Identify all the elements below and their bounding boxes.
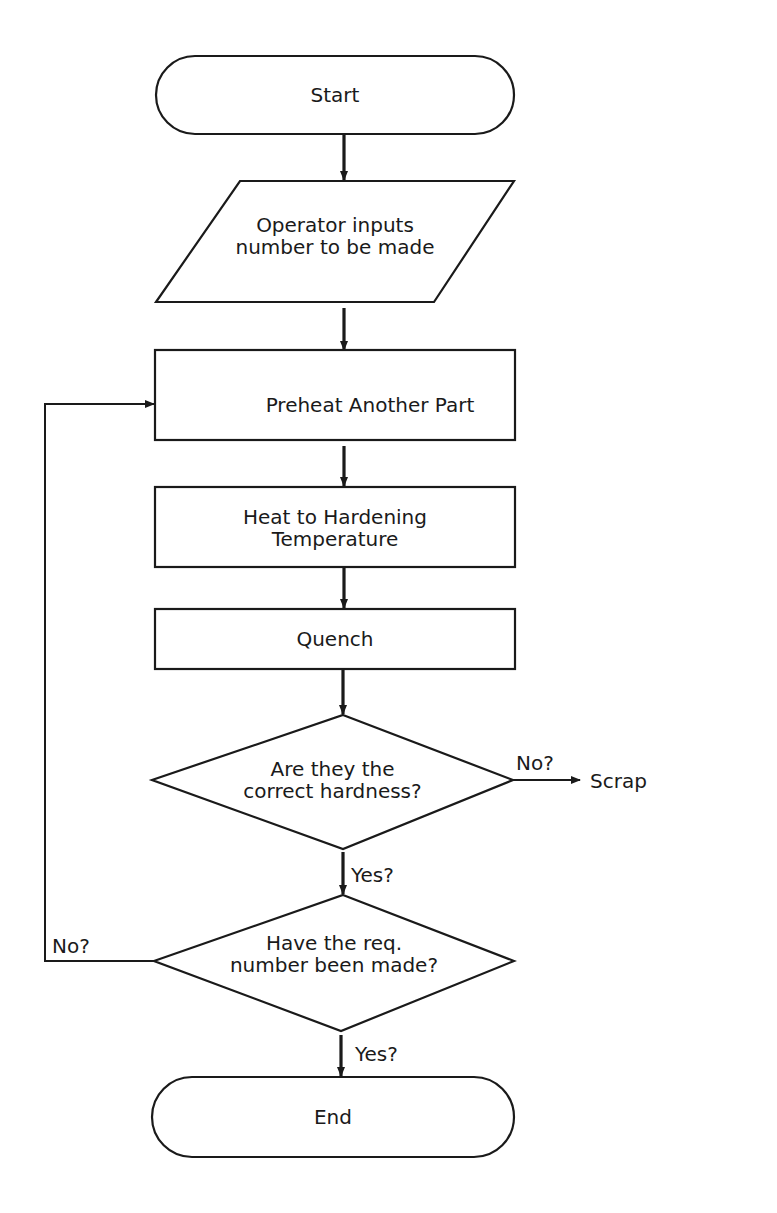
scrap-label: Scrap: [590, 770, 647, 792]
count-label-line1: Have the req.: [154, 932, 514, 954]
input-label-line2: number to be made: [156, 236, 514, 258]
edge-label-hardness-no: No?: [516, 752, 554, 774]
start-label: Start: [156, 84, 514, 106]
edge-count-preheat: [45, 404, 154, 961]
edge-label-count-yes: Yes?: [355, 1043, 398, 1065]
hardness-label-line2: correct hardness?: [152, 780, 513, 802]
edge-label-hardness-yes: Yes?: [351, 864, 394, 886]
quench-label: Quench: [155, 628, 515, 650]
end-label: End: [152, 1106, 514, 1128]
count-label: Have the req. number been made?: [154, 932, 514, 976]
hardness-label-line1: Are they the: [152, 758, 513, 780]
edge-label-count-no: No?: [52, 935, 90, 957]
hardness-label: Are they the correct hardness?: [152, 758, 513, 802]
input-label: Operator inputs number to be made: [156, 214, 514, 258]
preheat-label: Preheat Another Part: [190, 394, 530, 416]
heat-label: Heat to Hardening Temperature: [155, 506, 515, 550]
count-label-line2: number been made?: [154, 954, 514, 976]
heat-label-line2: Temperature: [155, 528, 515, 550]
input-label-line1: Operator inputs: [156, 214, 514, 236]
heat-label-line1: Heat to Hardening: [155, 506, 515, 528]
flowchart-canvas: [0, 0, 777, 1213]
